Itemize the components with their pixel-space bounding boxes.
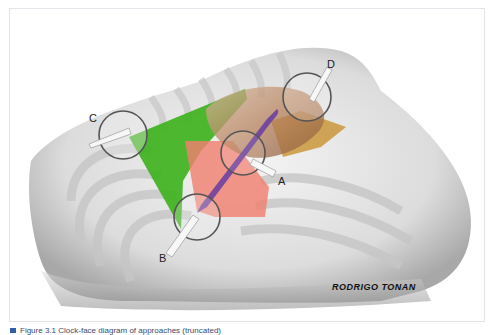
label-c: C — [89, 112, 97, 124]
label-d: D — [327, 58, 335, 70]
shoulder-illustration — [10, 9, 484, 321]
figure-caption: Figure 3.1 Clock-face diagram of approac… — [10, 326, 221, 335]
label-b: B — [159, 252, 166, 264]
caption-marker-icon — [10, 328, 16, 333]
figure-frame: C B A D RODRIGO TONAN — [9, 8, 485, 322]
caption-text: Figure 3.1 Clock-face diagram of approac… — [20, 326, 221, 335]
label-a: A — [278, 175, 285, 187]
artist-signature: RODRIGO TONAN — [332, 282, 416, 292]
